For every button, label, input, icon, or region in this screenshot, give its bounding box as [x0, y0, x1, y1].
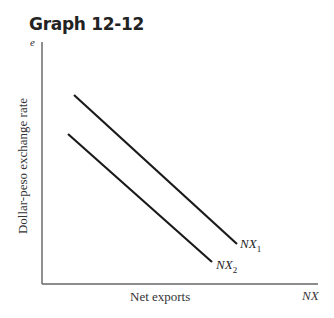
nx2-label-sub: 2 — [233, 265, 238, 275]
chart-plot-area — [0, 0, 334, 318]
nx2-curve — [68, 134, 212, 262]
x-axis-symbol: NX — [302, 288, 319, 304]
nx1-label-sub: 1 — [257, 244, 262, 254]
x-axis-label: Net exports — [130, 289, 190, 305]
nx1-label-main: NX — [240, 236, 257, 251]
nx2-label: NX2 — [216, 257, 237, 275]
y-axis-symbol: e — [30, 36, 35, 48]
nx1-label: NX1 — [240, 236, 261, 254]
nx2-label-main: NX — [216, 257, 233, 272]
nx1-curve — [74, 95, 237, 244]
y-axis-label: Dollar-peso exchange rate — [15, 98, 31, 234]
